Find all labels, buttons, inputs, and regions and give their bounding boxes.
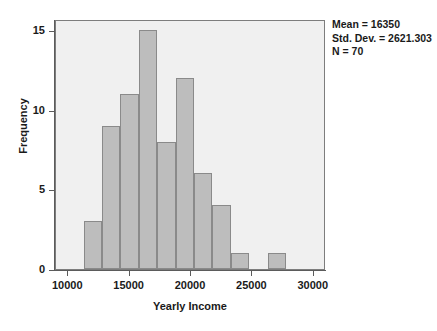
- y-axis-tick-label: 5: [5, 184, 45, 195]
- y-axis-tick: [49, 111, 54, 112]
- x-axis-tick-label: 30000: [283, 279, 343, 291]
- histogram-bar: [157, 142, 175, 269]
- statistics-annotation: Mean = 16350 Std. Dev. = 2621.303 N = 70: [332, 18, 437, 59]
- bars-layer: [56, 21, 324, 269]
- y-axis-tick: [49, 31, 54, 32]
- histogram-bar: [176, 78, 194, 269]
- x-axis-tick: [129, 271, 130, 276]
- plot-area: [55, 20, 325, 270]
- y-axis-tick-label: 15: [5, 25, 45, 36]
- x-axis-tick: [251, 271, 252, 276]
- stat-n: N = 70: [332, 45, 437, 59]
- x-axis-tick: [313, 271, 314, 276]
- x-axis-title: Yearly Income: [55, 300, 325, 312]
- x-axis-tick-label: 10000: [37, 279, 97, 291]
- x-axis-tick-label: 15000: [99, 279, 159, 291]
- histogram-bar: [102, 126, 120, 269]
- x-axis-tick-label: 20000: [160, 279, 220, 291]
- histogram-bar: [120, 94, 138, 269]
- stat-mean: Mean = 16350: [332, 18, 437, 32]
- x-axis-tick-label: 25000: [221, 279, 281, 291]
- y-axis-tick-label: 0: [5, 264, 45, 275]
- histogram-bar: [212, 205, 230, 269]
- y-axis-tick: [49, 190, 54, 191]
- histogram-bar: [194, 173, 212, 269]
- histogram-bar: [84, 221, 102, 269]
- histogram-bar: [231, 253, 249, 269]
- histogram-bar: [139, 30, 157, 269]
- y-axis-line: [54, 20, 55, 271]
- stat-std-dev: Std. Dev. = 2621.303: [332, 32, 437, 46]
- x-axis-tick: [190, 271, 191, 276]
- x-axis-tick: [67, 271, 68, 276]
- y-axis-title: Frequency: [17, 81, 29, 171]
- histogram-chart: 051015 Frequency 10000150002000025000300…: [0, 0, 437, 331]
- histogram-bar: [268, 253, 286, 269]
